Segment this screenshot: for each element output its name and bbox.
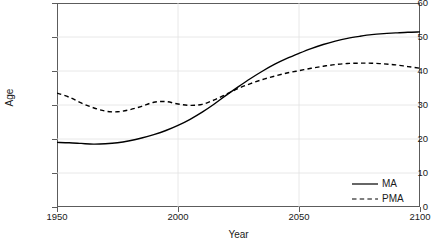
y-tick-label: 40 <box>384 66 428 76</box>
series-lines <box>57 32 420 144</box>
x-tick-label: 2000 <box>153 211 203 222</box>
legend-line-solid-icon <box>352 179 378 189</box>
y-tick-mark <box>52 139 57 140</box>
y-tick-label: 60 <box>384 0 428 8</box>
y-tick-mark <box>52 3 57 4</box>
legend: MA PMA <box>352 176 412 206</box>
y-axis-label: Age <box>4 75 15 121</box>
y-tick-mark <box>52 71 57 72</box>
x-tick-mark <box>420 207 421 212</box>
series-line-pma <box>57 63 420 112</box>
x-tick-label: 2100 <box>395 211 435 222</box>
legend-line-dashed-icon <box>352 194 378 204</box>
x-tick-mark <box>57 207 58 212</box>
x-tick-label: 2050 <box>274 211 324 222</box>
y-tick-label: 30 <box>384 100 428 110</box>
y-tick-mark <box>52 105 57 106</box>
legend-item-pma[interactable]: PMA <box>352 191 412 206</box>
x-tick-mark <box>178 207 179 212</box>
legend-item-ma[interactable]: MA <box>352 176 412 191</box>
y-tick-label: 50 <box>384 32 428 42</box>
y-tick-mark <box>52 173 57 174</box>
x-tick-label: 1950 <box>32 211 82 222</box>
x-axis-label: Year <box>57 229 420 240</box>
y-tick-mark <box>52 37 57 38</box>
x-tick-mark <box>299 207 300 212</box>
legend-label-ma: MA <box>378 178 397 189</box>
series-line-ma <box>57 32 420 144</box>
y-tick-label: 20 <box>384 134 428 144</box>
legend-label-pma: PMA <box>378 193 404 204</box>
